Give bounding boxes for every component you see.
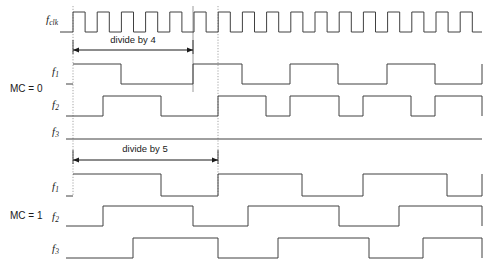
divide-by-4-span-arrow-right — [187, 47, 193, 52]
signal-label-mc1-f_1: f1 — [52, 181, 59, 194]
signal-label-subscript: 1 — [55, 70, 59, 79]
waveform-mc1-f_1 — [73, 174, 482, 196]
signal-label-subscript: 2 — [55, 215, 59, 224]
signal-label-mc0-f_1: f1 — [52, 66, 59, 79]
signal-label-subscript: clk — [49, 18, 58, 27]
signal-label-mc1-f_2: f2 — [52, 211, 59, 224]
divide-by-5-span-arrow-right — [212, 157, 218, 162]
signal-label-mc0-f_2: f2 — [52, 99, 59, 112]
waveform-mc1-f_3 — [73, 238, 482, 258]
mode-label-mc0: MC = 0 — [10, 84, 43, 94]
waveform-canvas — [0, 0, 486, 272]
timing-diagram: MC = 0divide by 4fclkf1f2f3MC = 1divide … — [0, 0, 486, 272]
mode-label-mc1: MC = 1 — [10, 211, 43, 221]
divide-by-5-span-arrow-left — [73, 157, 79, 162]
divide-by-4-span-text: divide by 4 — [107, 35, 158, 45]
waveform-mc1-f_2 — [73, 206, 482, 226]
signal-label-mc1-f_3: f3 — [52, 243, 59, 256]
signal-label-subscript: 2 — [55, 103, 59, 112]
divide-by-4-span-arrow-left — [73, 47, 79, 52]
signal-label-mc0-f_3: f3 — [52, 126, 59, 139]
signal-label-mc0-f_clk: fclk — [46, 14, 58, 27]
signal-label-subscript: 3 — [55, 247, 59, 256]
signal-label-subscript: 1 — [55, 185, 59, 194]
divide-by-5-span-text: divide by 5 — [119, 144, 170, 154]
waveform-mc0-f_clk — [73, 12, 482, 32]
signal-label-subscript: 3 — [55, 130, 59, 139]
waveform-mc0-f_2 — [73, 96, 482, 116]
waveform-mc0-f_1 — [73, 64, 482, 84]
